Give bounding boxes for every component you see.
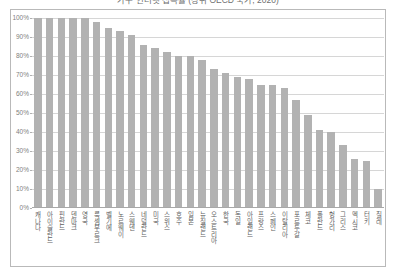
x-axis-label-slot: 네덜란드 — [138, 209, 150, 265]
bar — [128, 35, 136, 208]
bar-slot — [267, 18, 279, 208]
chart-title: 가구 인터넷 접속률 (상위 OECD 국가, 2020) — [0, 0, 396, 5]
x-axis-tick-label: 체코 — [304, 211, 311, 224]
x-axis-tick-label: 아이슬란드 — [46, 211, 53, 244]
x-axis-tick-label: 폴란드 — [316, 211, 323, 231]
bar-slot — [278, 18, 290, 208]
x-axis-tick-label: 프랑스 — [257, 211, 264, 231]
bar — [257, 85, 265, 209]
x-axis-label-slot: 독일 — [231, 209, 243, 265]
bar-slot — [55, 18, 67, 208]
x-axis-label-slot: 영국 — [79, 209, 91, 265]
x-axis: 캐나다아이슬란드핀란드덴마크영국룩셈부르크벨기에노르웨이스웨덴네덜란드미국스위스… — [32, 209, 384, 265]
bar-slot — [255, 18, 267, 208]
bar — [234, 77, 242, 208]
bar — [210, 69, 218, 208]
bar — [34, 18, 42, 208]
y-axis-tick-label: 70% — [16, 72, 29, 79]
y-axis-tick-label: 30% — [16, 148, 29, 155]
x-axis-label-slot: 핀란드 — [55, 209, 67, 265]
bar-slot — [161, 18, 173, 208]
bar-slot — [337, 18, 349, 208]
y-axis-tick-label: 10% — [16, 186, 29, 193]
bar — [269, 85, 277, 209]
bar-slot — [44, 18, 56, 208]
x-axis-tick-label: 네덜란드 — [140, 211, 147, 237]
x-axis-label-slot: 폴란드 — [314, 209, 326, 265]
x-axis-label-slot: 아일랜드 — [243, 209, 255, 265]
x-axis-tick-label: 스페인 — [269, 211, 276, 231]
x-axis-label-slot: 이탈리아 — [278, 209, 290, 265]
x-axis-label-slot: 덴마크 — [67, 209, 79, 265]
x-axis-tick-label: 오스트리아 — [210, 211, 217, 244]
bar-slot — [91, 18, 103, 208]
x-axis-tick-label: 아일랜드 — [246, 211, 253, 237]
x-axis-tick-label: 독일 — [234, 211, 241, 224]
bar — [292, 100, 300, 208]
bar — [222, 73, 230, 208]
y-axis-tick-label: 0% — [20, 205, 29, 212]
bar-slot — [114, 18, 126, 208]
x-axis-label-slot: 포르투갈 — [290, 209, 302, 265]
y-axis-tick-label: 90% — [16, 34, 29, 41]
x-axis-tick-label: 터키 — [363, 211, 370, 224]
bar — [93, 22, 101, 208]
bar — [81, 18, 89, 208]
bar — [46, 18, 54, 208]
x-axis-label-slot: 오스트리아 — [208, 209, 220, 265]
bar-slot — [138, 18, 150, 208]
x-axis-tick-label: 캐나다 — [34, 211, 41, 231]
x-axis-label-slot: 헝가리 — [325, 209, 337, 265]
x-axis-line — [32, 207, 384, 208]
bar-slot — [67, 18, 79, 208]
bar-slot — [372, 18, 384, 208]
bar — [198, 60, 206, 208]
bar — [327, 132, 335, 208]
x-axis-label-slot: 아이슬란드 — [44, 209, 56, 265]
bar-slot — [220, 18, 232, 208]
x-axis-label-slot: 터키 — [361, 209, 373, 265]
x-axis-label-slot: 그리스 — [337, 209, 349, 265]
y-axis: 100%90%80%70%60%50%40%30%20%10%0% — [11, 10, 30, 268]
y-axis-tick-label: 40% — [16, 129, 29, 136]
x-axis-label-slot: 스위스 — [161, 209, 173, 265]
x-axis-tick-label: 멕시코 — [351, 211, 358, 231]
bar-slot — [79, 18, 91, 208]
bar — [374, 189, 382, 208]
x-axis-tick-label: 호주 — [175, 211, 182, 224]
x-axis-label-slot: 캐나다 — [32, 209, 44, 265]
x-axis-tick-label: 벨기에 — [105, 211, 112, 231]
bar-slot — [32, 18, 44, 208]
x-axis-label-slot: 체코 — [302, 209, 314, 265]
x-axis-tick-label: 한국 — [222, 211, 229, 224]
bar — [163, 52, 171, 208]
x-axis-tick-label: 이탈리아 — [281, 211, 288, 237]
x-axis-label-slot: 벨기에 — [102, 209, 114, 265]
x-axis-tick-label: 노르웨이 — [117, 211, 124, 237]
x-axis-label-slot: 미국 — [149, 209, 161, 265]
bar — [351, 159, 359, 208]
bar-slot — [185, 18, 197, 208]
plot-area — [32, 18, 384, 208]
x-axis-tick-label: 핀란드 — [58, 211, 65, 231]
bar — [140, 45, 148, 208]
bar — [363, 161, 371, 209]
bar-slot — [126, 18, 138, 208]
bar-slot — [208, 18, 220, 208]
x-axis-tick-label: 스웨덴 — [128, 211, 135, 231]
x-axis-label-slot: 칠레 — [372, 209, 384, 265]
x-axis-tick-label: 룩셈부르크 — [93, 211, 100, 244]
bar-slot — [243, 18, 255, 208]
bar-slot — [102, 18, 114, 208]
bar — [245, 79, 253, 208]
bar — [316, 130, 324, 208]
bar — [58, 18, 66, 208]
bar-series — [32, 18, 384, 208]
bar-slot — [149, 18, 161, 208]
bar-slot — [231, 18, 243, 208]
x-axis-label-slot: 한국 — [220, 209, 232, 265]
x-axis-tick-label: 그리스 — [339, 211, 346, 231]
x-axis-label-slot: 룩셈부르크 — [91, 209, 103, 265]
bar — [187, 56, 195, 208]
plot-wrapper: 100%90%80%70%60%50%40%30%20%10%0% 캐나다아이슬… — [11, 10, 387, 268]
